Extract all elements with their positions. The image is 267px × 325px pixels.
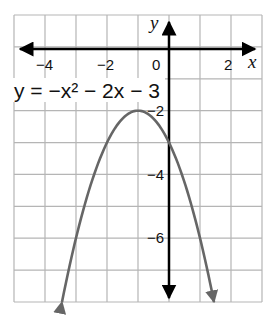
x-tick-label: −2	[97, 56, 114, 73]
x-axis-label: x	[247, 51, 257, 72]
x-tick-label: 2	[224, 56, 232, 73]
x-tick-label: 0	[152, 56, 160, 73]
y-axis-label: y	[148, 12, 159, 33]
y-tick-label: −6	[147, 229, 164, 246]
graph-canvas: y x −4 −2 0 2 −2 −4 −6 y = −x² − 2x − 3	[0, 0, 267, 325]
x-tick-label: −4	[36, 56, 53, 73]
y-tick-label: −4	[147, 166, 164, 183]
y-tick-label: −2	[147, 102, 164, 119]
equation-label: y = −x² − 2x − 3	[14, 79, 160, 102]
